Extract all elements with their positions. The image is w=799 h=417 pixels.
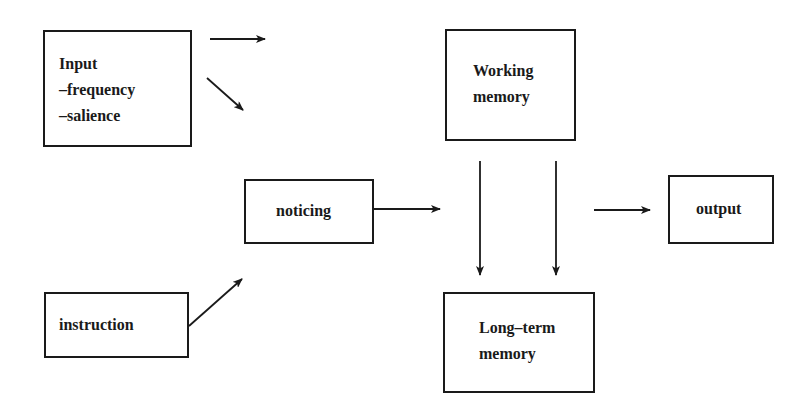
long-term-memory-line1: Long–term xyxy=(479,318,555,338)
input-frequency: –frequency xyxy=(59,80,135,100)
input-box: Input –frequency –salience xyxy=(43,30,192,147)
noticing-label: noticing xyxy=(276,201,331,221)
working-memory-box: Working memory xyxy=(445,29,576,141)
long-term-memory-box: Long–term memory xyxy=(443,292,595,393)
instruction-label: instruction xyxy=(59,315,134,335)
working-memory-line2: memory xyxy=(473,87,530,107)
output-label: output xyxy=(696,199,741,219)
noticing-box: noticing xyxy=(244,179,374,244)
long-term-memory-line2: memory xyxy=(479,344,536,364)
working-memory-line1: Working xyxy=(473,61,533,81)
input-salience: –salience xyxy=(59,106,120,126)
instruction-box: instruction xyxy=(44,292,189,358)
output-box: output xyxy=(668,175,774,244)
arrow-input-diagonal xyxy=(207,78,243,110)
input-title: Input xyxy=(59,54,97,74)
arrow-instruction-noticing xyxy=(189,279,242,326)
